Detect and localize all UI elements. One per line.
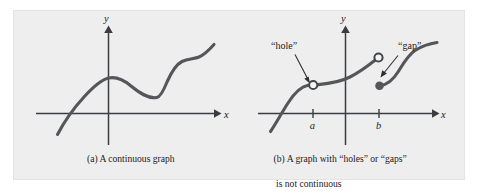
panel-b-gap-callout-label: “gap” bbox=[398, 40, 421, 51]
panel-a-continuous-curve bbox=[58, 45, 215, 135]
panel-b-y-axis-arrowhead bbox=[341, 26, 350, 34]
panel-b-gap-open-circle bbox=[374, 53, 382, 61]
panel-a-x-axis-label: x bbox=[223, 109, 229, 120]
panel-b-graph: x y a b “hole” “gap” bbox=[258, 13, 446, 145]
panel-a-caption-text: (a) A continuous graph bbox=[87, 153, 175, 164]
panel-b-tick-b-label: b bbox=[376, 120, 381, 131]
panel-b-hole-open-circle bbox=[309, 81, 317, 89]
panel-b-hole-leader-line bbox=[295, 55, 308, 79]
panel-b-hole-leader-arrowhead bbox=[304, 76, 310, 83]
panel-b-caption: (b) A graph with “holes” or “gaps” is no… bbox=[264, 140, 454, 193]
panel-a-x-axis-arrowhead bbox=[214, 109, 222, 118]
panel-a-y-axis-arrowhead bbox=[104, 26, 113, 34]
panel-b-hole-callout-label: “hole” bbox=[271, 40, 297, 51]
panel-b-caption-line-1: (b) A graph with “holes” or “gaps” bbox=[274, 153, 407, 164]
panel-a-graph: x y bbox=[36, 13, 229, 145]
panel-b-gap-leader-line bbox=[384, 56, 399, 74]
panel-a-caption: (a) A continuous graph bbox=[46, 140, 206, 178]
panel-b-x-axis-arrowhead bbox=[432, 109, 440, 118]
panel-b-curve-left-branch bbox=[271, 85, 309, 131]
panel-b-y-axis-label: y bbox=[340, 13, 346, 24]
panel-b-x-axis-label: x bbox=[440, 109, 446, 120]
panel-b-caption-line-2: is not continuous bbox=[264, 178, 454, 191]
figure-root: x y bbox=[0, 0, 478, 193]
panel-b-curve-middle-branch bbox=[319, 60, 377, 85]
panel-b-gap-closed-circle bbox=[376, 82, 383, 89]
panel-b-tick-a-label: a bbox=[310, 120, 315, 131]
panel-a-y-axis-label: y bbox=[103, 13, 109, 24]
